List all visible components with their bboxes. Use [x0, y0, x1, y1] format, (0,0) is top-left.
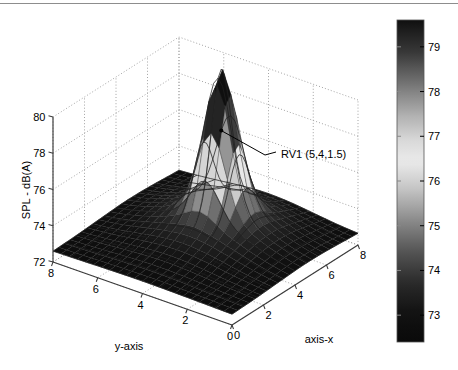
xtick-label: 4 [297, 289, 303, 301]
colorbar-tick-label: 76 [428, 175, 440, 187]
ztick-label: 74 [33, 220, 45, 232]
colorbar-tick-label: 74 [428, 264, 440, 276]
ztick-label: 78 [33, 147, 45, 159]
ytick-label: 8 [48, 267, 54, 279]
yaxis-title: y-axis [115, 340, 144, 352]
colorbar-tick-label: 73 [428, 309, 440, 321]
ytick-label: 6 [93, 283, 99, 295]
surface-plot-figure: 72747678800246802468SPL - dB(A)y-axisaxi… [0, 0, 458, 370]
xaxis-title: axis-x [305, 333, 334, 345]
colorbar-tick-label: 77 [428, 130, 440, 142]
xtick-label: 0 [234, 329, 240, 341]
zaxis-title: SPL - dB(A) [20, 161, 32, 219]
xtick-label: 6 [328, 269, 334, 281]
colorbar-tick-label: 75 [428, 220, 440, 232]
xtick-label: 2 [265, 309, 271, 321]
ztick-label: 76 [33, 184, 45, 196]
colorbar-gradient [397, 20, 424, 342]
xtick-label: 8 [360, 249, 366, 261]
surface-mesh [53, 69, 358, 314]
plot-canvas: 72747678800246802468SPL - dB(A)y-axisaxi… [0, 0, 458, 370]
colorbar: 73747576777879 [397, 20, 440, 342]
ztick-label: 80 [33, 111, 45, 123]
colorbar-tick-label: 79 [428, 41, 440, 53]
ytick-label: 0 [227, 330, 233, 342]
annotation-label: RV1 (5,4,1.5) [281, 148, 346, 160]
ytick-label: 2 [182, 314, 188, 326]
ytick-label: 4 [137, 299, 143, 311]
ztick-label: 72 [33, 256, 45, 268]
colorbar-tick-label: 78 [428, 86, 440, 98]
